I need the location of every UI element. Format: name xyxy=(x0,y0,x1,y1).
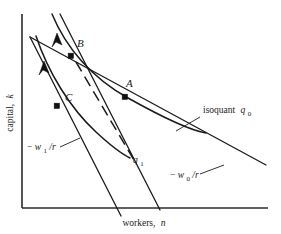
label-isocost-w1-symbol: w xyxy=(35,142,42,152)
point-label-A: A xyxy=(125,77,133,89)
label-isoquant-q0: isoquant q 0 xyxy=(203,105,252,118)
isocost-line-w1-through-B xyxy=(60,14,160,210)
label-isoquant-q1: q 1 xyxy=(133,155,144,168)
label-isoquant-q1-symbol: q xyxy=(133,155,138,165)
point-marker-C xyxy=(54,103,59,108)
y-axis-label: capital, k xyxy=(5,94,15,132)
label-isocost-w0-suffix: /r xyxy=(191,170,199,180)
x-axis-label: workers, n xyxy=(122,218,165,228)
label-isocost-w0: − w 0 /r xyxy=(170,170,199,183)
leader-line-isocost-w1 xyxy=(60,138,80,147)
diagram-canvas: A B C isoquant q 0 q 1 − w 0 /r xyxy=(0,0,281,234)
point-label-C: C xyxy=(65,91,73,103)
label-isoquant-q0-word: isoquant xyxy=(203,105,236,115)
y-axis-label-symbol: k xyxy=(5,94,15,99)
label-isocost-w0-symbol: w xyxy=(178,170,185,180)
label-isocost-w1: − w 1 /r xyxy=(27,142,56,155)
point-marker-B xyxy=(68,53,73,58)
point-labels-group: A B C xyxy=(65,37,133,103)
point-label-B: B xyxy=(77,37,84,49)
label-isoquant-q1-subscript: 1 xyxy=(140,160,144,168)
y-axis-label-text: capital, xyxy=(5,104,15,132)
isocost-lines-group xyxy=(30,14,266,216)
isoquant-isocost-figure: A B C isoquant q 0 q 1 − w 0 /r xyxy=(0,0,281,234)
label-isocost-w1-minus: − xyxy=(27,142,32,152)
label-isocost-w1-subscript: 1 xyxy=(43,147,47,155)
x-axis-label-text: workers, xyxy=(122,218,155,228)
x-axis-label-symbol: n xyxy=(161,218,166,228)
isoquant-curve-q1 xyxy=(36,36,130,158)
label-isocost-w0-minus: − xyxy=(170,170,175,180)
isoquant-curve-q0 xyxy=(52,14,206,133)
point-marker-A xyxy=(122,94,127,99)
arrowhead-icon-upper-isocost xyxy=(52,33,62,47)
label-isocost-w1-suffix: /r xyxy=(48,142,56,152)
leader-line-isocost-w0 xyxy=(200,165,224,174)
label-isoquant-q0-symbol: q xyxy=(241,105,246,115)
label-isocost-w0-subscript: 0 xyxy=(186,175,190,183)
label-isoquant-q0-subscript: 0 xyxy=(248,110,252,118)
